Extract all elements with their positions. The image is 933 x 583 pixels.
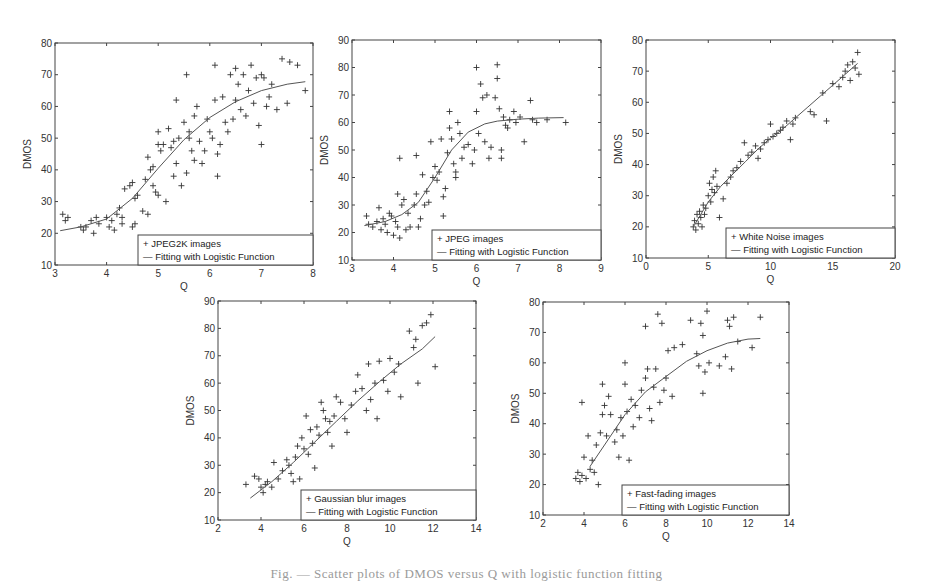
scatter-plot-4: 2468101214102030405060708090QDMOS+ Gauss…: [185, 296, 482, 548]
x-tick-label: 10: [384, 523, 396, 534]
x-axis-label: Q: [767, 274, 775, 285]
plus-marker-icon: [290, 479, 296, 485]
plus-marker-icon: [457, 131, 463, 137]
plus-marker-icon: [643, 375, 649, 381]
plus-marker-icon: [453, 169, 459, 175]
legend-entry-scatter: + JPEG images: [437, 233, 504, 244]
plus-marker-icon: [451, 161, 457, 167]
plus-marker-icon: [329, 443, 335, 449]
plus-marker-icon: [616, 454, 622, 460]
plus-marker-icon: [585, 433, 591, 439]
plus-marker-icon: [699, 224, 705, 230]
plus-marker-icon: [295, 62, 301, 68]
plus-marker-icon: [426, 199, 432, 205]
plus-marker-icon: [106, 224, 112, 230]
plus-marker-icon: [302, 88, 308, 94]
plus-marker-icon: [155, 141, 161, 147]
plus-marker-icon: [612, 439, 618, 445]
plus-marker-icon: [312, 465, 318, 471]
logistic-fit-line: [60, 82, 305, 231]
legend-entry-fit: — Fitting with Logistic Function: [627, 501, 758, 512]
plus-marker-icon: [387, 355, 393, 361]
legend-entry-fit: — Fitting with Logistic Function: [143, 251, 274, 262]
figure-caption: Fig. — Scatter plots of DMOS versus Q wi…: [0, 566, 933, 582]
plus-marker-icon: [420, 172, 426, 178]
plus-marker-icon: [398, 394, 404, 400]
plus-marker-icon: [602, 402, 608, 408]
plus-marker-icon: [669, 393, 675, 399]
y-tick-label: 70: [529, 327, 541, 338]
plus-marker-icon: [220, 94, 226, 100]
y-tick-label: 70: [204, 350, 216, 361]
plus-marker-icon: [65, 214, 71, 220]
plus-marker-icon: [248, 62, 254, 68]
legend-entry-fit: — Fitting with Logistic Function: [437, 246, 568, 257]
scatter-plot-2: 3456789102030405060708090QDMOS+ JPEG ima…: [319, 35, 604, 288]
logistic-fit-line: [250, 337, 435, 499]
plus-marker-icon: [749, 345, 755, 351]
plot-frame: [218, 301, 476, 520]
plus-marker-icon: [661, 387, 667, 393]
plus-marker-icon: [593, 442, 599, 448]
x-tick-label: 14: [783, 518, 795, 529]
plus-marker-icon: [171, 138, 177, 144]
scatter-plot-1: 3456781020304050607080QDMOS+ JPEG2K imag…: [22, 38, 316, 293]
plus-marker-icon: [521, 139, 527, 145]
x-tick-label: 5: [155, 268, 161, 279]
plus-marker-icon: [243, 113, 249, 119]
plus-marker-icon: [364, 213, 370, 219]
plus-marker-icon: [486, 155, 492, 161]
plus-marker-icon: [269, 81, 275, 87]
plus-marker-icon: [391, 232, 397, 238]
plus-marker-icon: [171, 173, 177, 179]
plus-marker-icon: [659, 320, 665, 326]
plus-marker-icon: [413, 191, 419, 197]
scatter-plot-5: 24681012141020304050607080QDMOS+ Fast-fa…: [510, 297, 795, 543]
logistic-fit-line: [590, 339, 760, 467]
plus-marker-icon: [363, 408, 369, 414]
plus-marker-icon: [725, 317, 731, 323]
plus-marker-icon: [393, 219, 399, 225]
x-tick-label: 3: [52, 268, 58, 279]
plus-marker-icon: [474, 65, 480, 71]
plus-marker-icon: [109, 218, 115, 224]
y-axis-label: DMOS: [319, 135, 330, 165]
plus-marker-icon: [359, 386, 365, 392]
plus-marker-icon: [713, 168, 719, 174]
scatter-points: [60, 56, 309, 236]
plus-marker-icon: [447, 109, 453, 115]
y-tick-label: 30: [41, 196, 53, 207]
plus-marker-icon: [741, 140, 747, 146]
x-tick-label: 10: [701, 518, 713, 529]
plus-marker-icon: [355, 372, 361, 378]
plus-marker-icon: [225, 129, 231, 135]
plus-marker-icon: [482, 139, 488, 145]
plus-marker-icon: [836, 84, 842, 90]
chart-legend: + JPEG images— Fitting with Logistic Fun…: [432, 230, 601, 260]
plus-marker-icon: [227, 72, 233, 78]
plus-marker-icon: [716, 215, 722, 221]
plus-marker-icon: [150, 164, 156, 170]
scatter-points: [690, 49, 862, 233]
plus-marker-icon: [856, 71, 862, 77]
plus-marker-icon: [202, 148, 208, 154]
y-tick-label: 60: [204, 378, 216, 389]
plus-marker-icon: [286, 462, 292, 468]
plus-marker-icon: [246, 88, 252, 94]
plus-marker-icon: [258, 72, 264, 78]
logistic-fit-line: [693, 63, 857, 227]
x-tick-label: 0: [643, 261, 649, 272]
plus-marker-icon: [395, 224, 401, 230]
plus-marker-icon: [500, 114, 506, 120]
chart-legend: + Fast-fading images— Fitting with Logis…: [622, 485, 789, 515]
plus-marker-icon: [406, 328, 412, 334]
plus-marker-icon: [217, 141, 223, 147]
x-tick-label: 8: [344, 523, 350, 534]
plus-marker-icon: [722, 354, 728, 360]
legend-entry-scatter: + Gaussian blur images: [306, 493, 406, 504]
plus-marker-icon: [181, 119, 187, 125]
plus-marker-icon: [428, 139, 434, 145]
plus-marker-icon: [252, 473, 258, 479]
plus-marker-icon: [820, 90, 826, 96]
plus-marker-icon: [256, 476, 262, 482]
